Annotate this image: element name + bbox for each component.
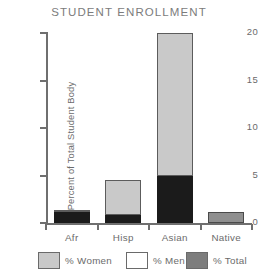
legend-swatch (126, 252, 148, 269)
legend-item-men[interactable]: % Men (126, 250, 185, 270)
x-tick-mark (148, 224, 150, 230)
chart-legend: % Women% Men% Total (0, 250, 258, 272)
x-axis-label-afr: Afr (44, 232, 100, 243)
bar-native (208, 33, 244, 223)
legend-item-women[interactable]: % Women (38, 250, 112, 270)
bar-segment (105, 215, 141, 223)
legend-swatch (38, 252, 60, 269)
enrollment-bar-chart: STUDENT ENROLLMENT 05101520 Percent of T… (0, 0, 258, 274)
legend-label: % Men (153, 255, 185, 266)
plot-area: Percent of Total Student Body (46, 33, 252, 223)
bar-segment (54, 212, 90, 223)
bar-afr (54, 33, 90, 223)
x-tick-mark (97, 224, 99, 230)
bar-segment (157, 33, 193, 176)
bar-segment (208, 212, 244, 223)
x-tick-mark (45, 224, 47, 230)
legend-label: % Women (65, 255, 112, 266)
chart-title: STUDENT ENROLLMENT (0, 6, 258, 18)
bar-hisp (105, 33, 141, 223)
x-axis-label-asian: Asian (147, 232, 203, 243)
x-tick-mark (200, 224, 202, 230)
legend-label: % Total (213, 255, 247, 266)
legend-swatch (186, 252, 208, 269)
x-axis-label-hisp: Hisp (95, 232, 151, 243)
bar-asian (157, 33, 193, 223)
x-axis-label-native: Native (198, 232, 254, 243)
x-tick-mark (251, 224, 253, 230)
legend-item-total[interactable]: % Total (186, 250, 247, 270)
bar-segment (157, 176, 193, 224)
bar-segment (105, 180, 141, 215)
